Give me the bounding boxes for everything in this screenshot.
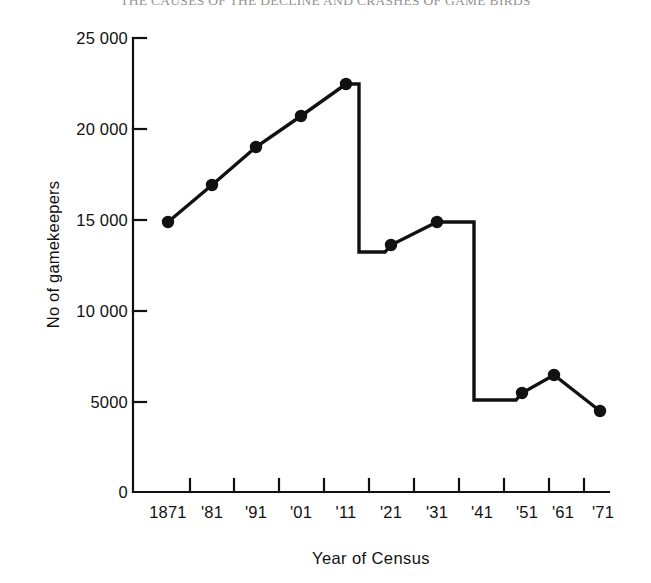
x-axis-ticks (190, 479, 584, 492)
data-point-1911 (340, 78, 352, 90)
data-point-1881 (206, 179, 218, 191)
data-point-1961 (548, 369, 560, 381)
data-point-1931 (431, 216, 443, 228)
data-markers (162, 78, 606, 417)
data-line (168, 84, 600, 411)
chart-figure: THE CAUSES OF THE DECLINE AND CRASHES OF… (0, 0, 651, 583)
axis-lines (133, 38, 609, 492)
data-point-1871 (162, 216, 174, 228)
data-point-1971 (594, 405, 606, 417)
data-point-1901 (295, 110, 307, 122)
data-point-1951 (516, 387, 528, 399)
y-axis-ticks (133, 38, 146, 402)
data-point-1891 (250, 141, 262, 153)
chart-plot-area (0, 0, 651, 583)
data-point-1921 (385, 239, 397, 251)
